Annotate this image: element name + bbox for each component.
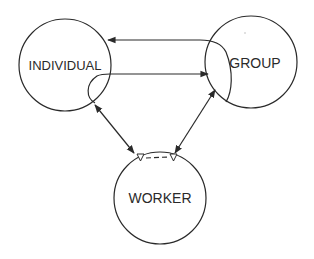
edge-individual-to-group	[88, 74, 208, 103]
node-group: GROUP	[205, 16, 297, 108]
worker-label: WORKER	[129, 190, 192, 206]
individual-label: INDIVIDUAL	[29, 58, 102, 73]
dashed-link	[146, 157, 168, 158]
node-individual: INDIVIDUAL	[19, 19, 111, 111]
edge-individual-worker	[95, 105, 134, 153]
diagram-canvas: INDIVIDUAL GROUP WORKER	[0, 0, 314, 259]
node-worker: WORKER	[114, 152, 206, 244]
edge-group-worker	[175, 90, 215, 153]
worker-internal-link	[137, 154, 177, 161]
group-label: GROUP	[229, 55, 280, 71]
speck-mark	[244, 32, 246, 34]
open-triangle-right-icon	[170, 154, 177, 161]
